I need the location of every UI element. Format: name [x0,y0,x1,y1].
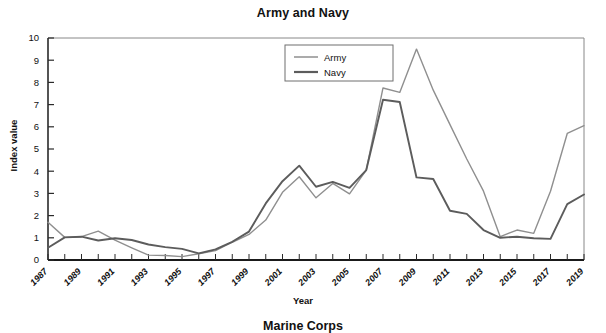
x-tick-label: 2009 [396,266,418,288]
x-tick-label: 2005 [329,266,352,289]
y-tick-label: 6 [34,121,39,132]
series-line-navy [48,100,584,254]
x-tick-label: 2013 [463,266,485,288]
x-tick-label: 1989 [62,266,83,287]
y-tick-label: 1 [34,232,39,243]
y-tick-label: 3 [34,188,39,199]
legend-label-army: Army [324,52,346,63]
x-tick-label: 2001 [262,266,284,288]
legend-label-navy: Navy [324,67,346,78]
y-tick-label: 7 [34,99,39,110]
x-tick-label: 2007 [362,266,385,289]
y-tick-label: 8 [34,77,39,88]
x-tick-label: 2015 [496,266,519,289]
x-tick-label: 1987 [28,266,50,288]
x-tick-label: 1993 [129,266,150,287]
x-tick-label: 1991 [95,266,116,287]
x-tick-label: 2011 [430,266,451,287]
y-tick-label: 4 [34,166,39,177]
x-tick-label: 1995 [162,266,184,288]
y-tick-group: 012345678910 [28,32,54,265]
y-tick-label: 0 [34,254,39,265]
y-tick-label: 2 [34,210,39,221]
y-tick-label: 10 [28,32,39,43]
y-tick-label: 5 [34,143,39,154]
chart-legend: ArmyNavy [285,45,393,81]
x-tick-label: 2003 [295,266,317,288]
x-tick-label: 1999 [229,266,250,287]
x-tick-label: 2017 [530,266,553,289]
x-tick-label: 1997 [196,266,218,288]
x-tick-label: 2019 [563,266,585,288]
y-tick-label: 9 [34,55,39,66]
